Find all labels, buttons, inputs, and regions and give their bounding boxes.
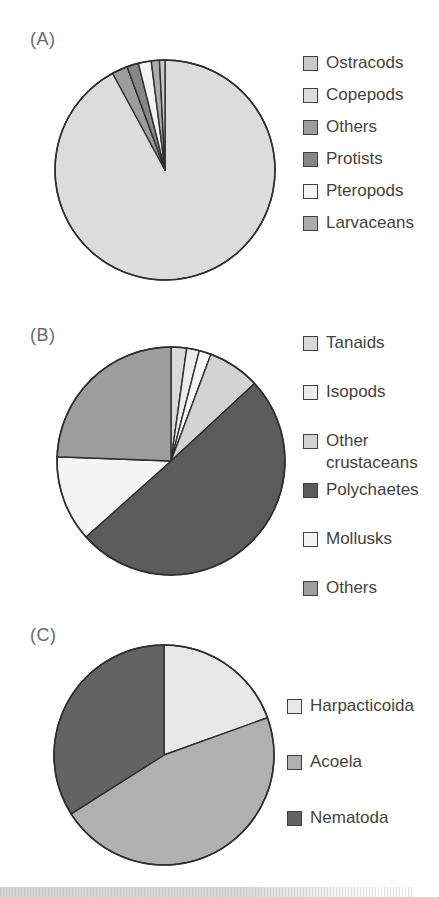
- legend-label-others: Others: [326, 577, 377, 599]
- legend-swatch-others: [303, 120, 318, 135]
- legend-swatch-harpacticoida: [287, 699, 302, 714]
- legend-label-isopods: Isopods: [326, 381, 386, 403]
- legend-swatch-ostracods: [303, 56, 318, 71]
- legend-item-other-crustaceans: Other crustaceans: [303, 425, 439, 474]
- legend-swatch-others: [303, 581, 318, 596]
- legend-swatch-acoela: [287, 755, 302, 770]
- legend-label-protists: Protists: [326, 148, 383, 170]
- legend-swatch-tanaids: [303, 336, 318, 351]
- legend-label-other-crustaceans: Other crustaceans: [326, 430, 439, 474]
- legend-label-copepods: Copepods: [326, 84, 404, 106]
- legend-item-copepods: Copepods: [303, 79, 439, 111]
- scan-edge-artifact: [0, 887, 412, 897]
- legend-chart-a: OstracodsCopepodsOthersProtistsPteropods…: [303, 47, 439, 239]
- pie-chart-macrofauna: [51, 341, 291, 581]
- legend-label-nematoda: Nematoda: [310, 807, 388, 829]
- legend-label-mollusks: Mollusks: [326, 528, 392, 550]
- legend-swatch-other-crustaceans: [303, 434, 318, 449]
- legend-swatch-protists: [303, 152, 318, 167]
- legend-item-nematoda: Nematoda: [287, 796, 439, 852]
- legend-label-ostracods: Ostracods: [326, 52, 403, 74]
- legend-item-acoela: Acoela: [287, 740, 439, 796]
- slice-others: [57, 347, 171, 461]
- legend-label-larvaceans: Larvaceans: [326, 212, 414, 234]
- legend-item-isopods: Isopods: [303, 376, 439, 425]
- legend-swatch-isopods: [303, 385, 318, 400]
- pie-chart-zooplankton: [45, 50, 285, 290]
- legend-item-harpacticoida: Harpacticoida: [287, 684, 439, 740]
- legend-label-harpacticoida: Harpacticoida: [310, 695, 414, 717]
- pie-chart-meiofauna: [44, 635, 284, 875]
- legend-swatch-nematoda: [287, 811, 302, 826]
- legend-swatch-polychaetes: [303, 483, 318, 498]
- legend-item-pteropods: Pteropods: [303, 175, 439, 207]
- legend-item-polychaetes: Polychaetes: [303, 474, 439, 523]
- legend-item-others: Others: [303, 111, 439, 143]
- legend-item-mollusks: Mollusks: [303, 523, 439, 572]
- legend-swatch-larvaceans: [303, 216, 318, 231]
- legend-item-tanaids: Tanaids: [303, 327, 439, 376]
- legend-item-others: Others: [303, 572, 439, 621]
- legend-chart-c: HarpacticoidaAcoelaNematoda: [287, 684, 439, 852]
- legend-label-pteropods: Pteropods: [326, 180, 404, 202]
- legend-chart-b: TanaidsIsopodsOther crustaceansPolychaet…: [303, 327, 439, 621]
- legend-item-larvaceans: Larvaceans: [303, 207, 439, 239]
- legend-swatch-pteropods: [303, 184, 318, 199]
- figure-three-pie-charts: (A) OstracodsCopepodsOthersProtistsPtero…: [0, 0, 439, 897]
- legend-item-ostracods: Ostracods: [303, 47, 439, 79]
- legend-label-tanaids: Tanaids: [326, 332, 385, 354]
- legend-label-others: Others: [326, 116, 377, 138]
- legend-label-acoela: Acoela: [310, 751, 362, 773]
- legend-swatch-mollusks: [303, 532, 318, 547]
- legend-label-polychaetes: Polychaetes: [326, 479, 419, 501]
- legend-item-protists: Protists: [303, 143, 439, 175]
- legend-swatch-copepods: [303, 88, 318, 103]
- panel-label-a: (A): [30, 29, 56, 50]
